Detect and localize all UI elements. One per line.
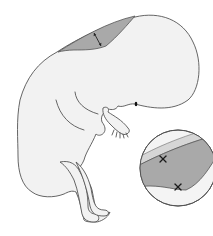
- magnified-inset: [130, 126, 213, 206]
- hand-icon: [103, 107, 129, 138]
- fetus-diagram: [0, 0, 213, 236]
- eye-icon: [135, 102, 138, 106]
